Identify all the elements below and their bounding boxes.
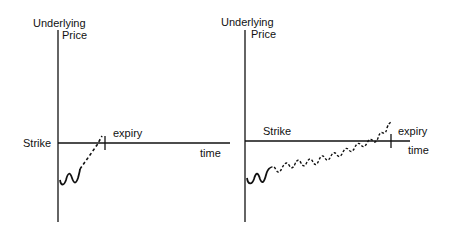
left-price-path-dashed [80, 136, 102, 169]
right-expiry-label: expiry [398, 125, 427, 137]
right-strike-label: Strike [263, 125, 291, 137]
right-price-path-solid [247, 168, 270, 183]
right-y-axis-label-line1: Underlying [221, 16, 274, 28]
left-x-axis-label: time [200, 147, 221, 159]
left-expiry-label: expiry [113, 127, 142, 139]
left-y-axis-label-line1: Underlying [33, 17, 86, 29]
left-diagram [58, 30, 230, 222]
left-y-axis-label-line2: Price [62, 29, 87, 41]
right-y-axis-label-line2: Price [251, 28, 276, 40]
right-x-axis-label: time [408, 144, 429, 156]
left-price-path-solid [60, 169, 80, 185]
left-strike-label: Strike [23, 137, 51, 149]
